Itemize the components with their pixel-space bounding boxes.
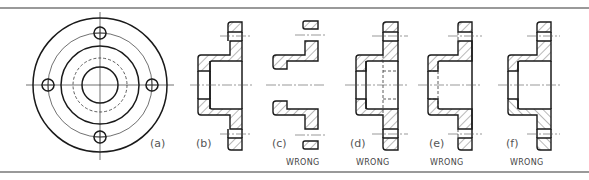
view-d-label: (d) [350, 137, 366, 150]
view-b-section [190, 22, 252, 150]
view-a-label: (a) [150, 137, 165, 150]
view-c-section [266, 21, 326, 149]
view-b-label: (b) [196, 137, 212, 150]
view-d-caption: WRONG [356, 158, 389, 167]
view-c-caption: WRONG [286, 158, 319, 167]
view-f-caption: WRONG [510, 158, 543, 167]
flange-section-figure: (a) (b) (c) (d) (e) (f) WRONG WRONG WRON… [0, 0, 589, 180]
view-c-label: (c) [272, 137, 287, 150]
view-d-section [345, 22, 408, 150]
view-e-label: (e) [429, 137, 444, 150]
view-e-caption: WRONG [430, 158, 463, 167]
view-f-label: (f) [506, 137, 518, 150]
view-e-section [418, 22, 482, 150]
view-f-section [498, 22, 560, 150]
